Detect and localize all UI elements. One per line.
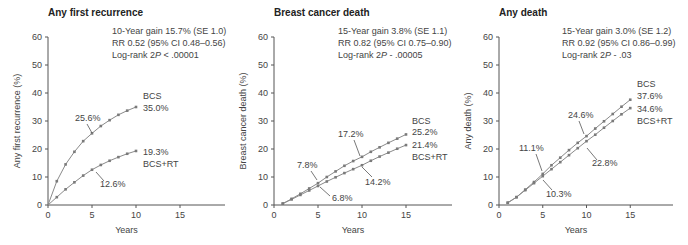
- data-marker: [396, 137, 399, 140]
- data-marker: [515, 196, 518, 199]
- data-marker: [73, 181, 76, 184]
- data-annotation: 37.6%: [637, 91, 663, 101]
- y-tick-label: 30: [32, 116, 42, 126]
- stat-line: Log-rank 2P < .00001: [112, 50, 199, 60]
- data-marker: [568, 149, 571, 152]
- data-marker: [594, 133, 597, 136]
- y-tick-label: 0: [37, 200, 42, 210]
- data-marker: [370, 159, 373, 162]
- y-tick-label: 60: [258, 32, 268, 42]
- data-annotation: 25.2%: [412, 127, 438, 137]
- data-annotation: 24.6%: [568, 110, 594, 120]
- data-marker: [524, 189, 527, 192]
- data-marker: [559, 156, 562, 159]
- x-tick-label: 0: [271, 210, 276, 220]
- data-annotation: 6.8%: [332, 193, 353, 203]
- data-annotation: 7.8%: [297, 160, 318, 170]
- y-tick-label: 30: [483, 116, 493, 126]
- data-annotation: BCS: [412, 116, 431, 126]
- series-line-bcs-plus-rt: [48, 151, 136, 205]
- figure-three-panel-line-charts: Any first recurrence0102030405060051015Y…: [0, 0, 688, 245]
- data-marker: [576, 147, 579, 150]
- data-annotation: BCS+RT: [143, 159, 179, 169]
- data-marker: [585, 140, 588, 143]
- data-marker: [108, 119, 111, 122]
- x-tick-label: 10: [581, 210, 591, 220]
- data-marker: [100, 164, 103, 167]
- y-tick-label: 50: [32, 60, 42, 70]
- y-tick-label: 40: [32, 88, 42, 98]
- data-annotation: 22.8%: [592, 158, 618, 168]
- data-marker: [620, 105, 623, 108]
- stat-line: Log-rank 2P - .03: [562, 50, 632, 60]
- data-marker: [82, 174, 85, 177]
- data-marker: [343, 165, 346, 168]
- data-marker: [387, 142, 390, 145]
- y-axis-label: Any death (%): [463, 92, 473, 149]
- data-marker: [317, 182, 320, 185]
- x-tick-label: 15: [175, 210, 185, 220]
- leader-line: [320, 187, 330, 196]
- data-marker: [559, 161, 562, 164]
- data-marker: [620, 113, 623, 116]
- y-tick-label: 50: [258, 60, 268, 70]
- data-marker: [126, 152, 129, 155]
- y-tick-label: 20: [483, 144, 493, 154]
- data-marker: [506, 201, 509, 204]
- data-marker: [361, 156, 364, 159]
- data-annotation: 10.3%: [546, 189, 572, 199]
- x-tick-label: 0: [496, 210, 501, 220]
- chart-panel-2: Breast cancer death0102030405060051015Ye…: [238, 7, 452, 235]
- y-tick-label: 60: [32, 32, 42, 42]
- data-marker: [91, 168, 94, 171]
- data-annotation: 25.6%: [75, 113, 101, 123]
- stat-line: RR 0.52 (95% CI 0.48–0.56): [112, 38, 226, 48]
- data-marker: [135, 106, 138, 109]
- data-marker: [308, 189, 311, 192]
- y-axis-label: Any first recurrence (%): [12, 74, 22, 169]
- leader-line: [87, 124, 92, 133]
- data-marker: [629, 107, 632, 110]
- x-tick-label: 5: [540, 210, 545, 220]
- data-annotation: 11.1%: [519, 143, 544, 153]
- data-marker: [64, 188, 67, 191]
- data-annotation: 19.3%: [143, 147, 169, 157]
- data-marker: [611, 113, 614, 116]
- chart-title: Any death: [499, 7, 547, 18]
- data-marker: [378, 146, 381, 149]
- data-marker: [611, 120, 614, 123]
- data-marker: [361, 164, 364, 167]
- data-marker: [117, 156, 120, 159]
- y-tick-label: 40: [258, 88, 268, 98]
- data-marker: [117, 114, 120, 117]
- y-tick-label: 60: [483, 32, 493, 42]
- stat-line: 10-Year gain 15.7% (SE 1.0): [112, 26, 226, 36]
- chart-panel-3: Any death0102030405060051015YearsAny dea…: [463, 7, 676, 235]
- data-marker: [56, 196, 59, 199]
- leader-line: [354, 140, 360, 156]
- x-tick-label: 5: [89, 210, 94, 220]
- data-marker: [585, 135, 588, 138]
- y-tick-label: 20: [32, 144, 42, 154]
- stat-line: RR 0.82 (95% CI 0.75–0.90): [338, 38, 452, 48]
- data-annotation: 17.2%: [338, 129, 364, 139]
- chart-title: Breast cancer death: [274, 7, 370, 18]
- x-tick-label: 10: [131, 210, 141, 220]
- x-tick-label: 0: [45, 210, 50, 220]
- data-annotation: 21.4%: [412, 140, 438, 150]
- y-tick-label: 20: [258, 144, 268, 154]
- x-tick-label: 15: [401, 210, 411, 220]
- data-marker: [533, 182, 536, 185]
- data-marker: [603, 126, 606, 129]
- y-tick-label: 10: [258, 172, 268, 182]
- data-marker: [126, 109, 129, 112]
- data-annotation: BCS: [143, 91, 162, 101]
- y-tick-label: 30: [258, 116, 268, 126]
- data-marker: [56, 180, 59, 183]
- data-marker: [387, 151, 390, 154]
- data-marker: [282, 202, 285, 205]
- data-annotation: BCS+RT: [412, 152, 448, 162]
- x-tick-label: 5: [315, 210, 320, 220]
- x-tick-label: 10: [357, 210, 367, 220]
- data-marker: [576, 142, 579, 145]
